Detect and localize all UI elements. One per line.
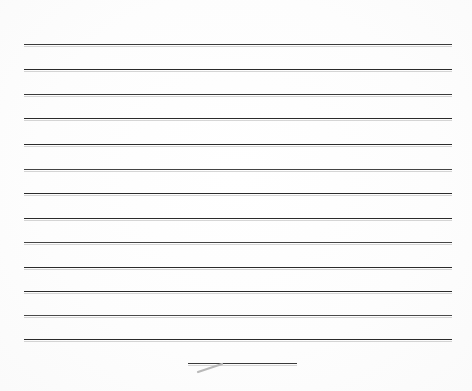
ruled-line xyxy=(24,218,452,219)
written-text xyxy=(0,0,1,1)
scanned-page: Blank ruled notebook page A scanned blan… xyxy=(0,0,472,391)
ruled-line xyxy=(24,169,452,170)
ruled-line xyxy=(24,118,452,119)
ruled-line xyxy=(24,339,452,340)
ruled-line xyxy=(24,94,452,95)
ruled-line xyxy=(24,193,452,194)
ruled-line xyxy=(24,44,452,45)
ruled-line xyxy=(24,144,452,145)
ruled-line xyxy=(24,315,452,316)
short-underline xyxy=(188,363,297,364)
ruled-line xyxy=(24,291,452,292)
ruled-line xyxy=(24,242,452,243)
ruled-line xyxy=(24,69,452,70)
page-description: A scanned blank sheet of ruled writing p… xyxy=(0,0,1,1)
page-title: Blank ruled notebook page xyxy=(0,0,1,1)
ruled-line xyxy=(24,267,452,268)
